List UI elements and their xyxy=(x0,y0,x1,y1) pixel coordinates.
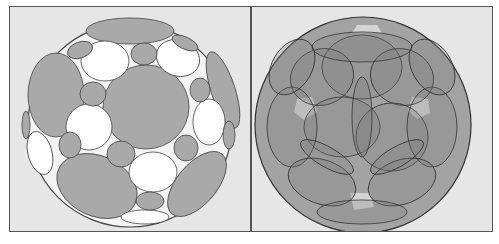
disc xyxy=(190,78,210,102)
overlap-diagram xyxy=(252,7,492,231)
disc xyxy=(131,43,157,65)
disc xyxy=(80,82,106,106)
disc xyxy=(107,141,135,167)
right-panel-overlap xyxy=(251,6,493,232)
packing-diagram xyxy=(10,7,250,231)
disc xyxy=(22,111,30,139)
disc xyxy=(193,99,225,145)
left-panel-packing xyxy=(9,6,251,232)
overlap-disc xyxy=(317,200,407,224)
disc xyxy=(174,135,198,161)
disc xyxy=(59,132,81,158)
disc xyxy=(223,121,235,149)
disc xyxy=(136,192,164,210)
overlap-disc xyxy=(352,77,372,157)
overlap-disc xyxy=(312,32,412,62)
disc xyxy=(129,152,177,192)
disc xyxy=(121,210,169,224)
disc xyxy=(86,18,174,44)
